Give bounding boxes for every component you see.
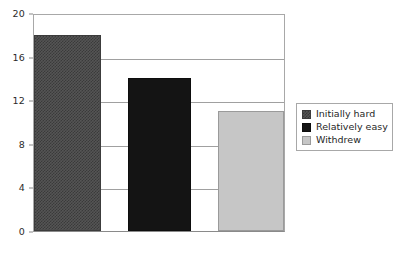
legend: Initially hard Relatively easy Withdrew	[296, 103, 393, 151]
y-tick-label-20: 20	[13, 9, 26, 19]
bar-initially-hard	[34, 35, 101, 231]
y-tick-label-12: 12	[13, 96, 26, 106]
light-swatch-icon	[302, 136, 311, 145]
dark-swatch-icon	[302, 123, 311, 132]
legend-item-relatively-easy: Relatively easy	[302, 121, 387, 133]
legend-item-withdrew: Withdrew	[302, 134, 387, 146]
y-axis: 20 16 12 8 4 0	[0, 0, 33, 257]
legend-label-initially-hard: Initially hard	[316, 109, 375, 119]
plot-area	[33, 14, 285, 232]
y-tick-label-8: 8	[19, 140, 25, 150]
y-tick-label-4: 4	[19, 184, 25, 194]
hatch-swatch-icon	[302, 110, 311, 119]
bar-withdrew	[218, 111, 284, 231]
y-tick-label-0: 0	[19, 227, 25, 237]
legend-label-withdrew: Withdrew	[316, 135, 361, 145]
legend-label-relatively-easy: Relatively easy	[316, 122, 388, 132]
bar-chart: 20 16 12 8 4 0 Initially hard Relati	[0, 0, 403, 257]
y-tick-label-16: 16	[13, 53, 26, 63]
legend-item-initially-hard: Initially hard	[302, 108, 387, 120]
bar-relatively-easy	[128, 78, 191, 231]
